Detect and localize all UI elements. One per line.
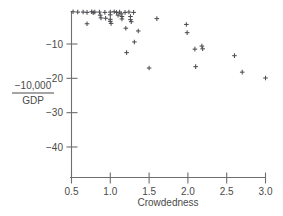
x-axis-tick-label: 1.5 bbox=[142, 186, 156, 197]
data-point bbox=[193, 47, 198, 52]
data-point bbox=[124, 26, 129, 31]
data-point bbox=[232, 53, 237, 58]
data-points bbox=[71, 9, 268, 80]
x-axis-tick-label: 2.0 bbox=[181, 186, 195, 197]
x-axis-tick-label: 3.0 bbox=[259, 186, 273, 197]
data-point bbox=[99, 16, 104, 21]
data-point bbox=[200, 44, 205, 49]
data-point bbox=[75, 10, 80, 15]
data-point bbox=[103, 10, 108, 15]
data-point bbox=[193, 64, 198, 69]
data-point bbox=[112, 9, 117, 14]
y-axis-label-denominator: GDP bbox=[22, 95, 44, 106]
data-point bbox=[240, 70, 245, 75]
y-axis-tick-label: −40 bbox=[46, 142, 63, 153]
x-axis-tick-label: 2.5 bbox=[220, 186, 234, 197]
data-point bbox=[200, 47, 205, 52]
x-axis-ticks: 0.51.01.52.02.53.0 bbox=[65, 173, 273, 198]
data-point bbox=[131, 10, 136, 15]
x-axis-title: Crowdedness bbox=[137, 197, 198, 208]
data-point bbox=[120, 17, 125, 22]
y-axis-tick-label: −20 bbox=[46, 73, 63, 84]
data-point bbox=[132, 40, 137, 45]
data-point bbox=[85, 21, 90, 26]
data-point bbox=[97, 10, 102, 15]
y-axis-tick-label: −10 bbox=[46, 39, 63, 50]
x-axis-tick-label: 1.0 bbox=[103, 186, 117, 197]
data-point bbox=[155, 16, 160, 21]
y-axis-ticks: −10−20−30−40 bbox=[46, 39, 77, 153]
data-point bbox=[185, 30, 190, 35]
scatter-plot-figure: −10,000 GDP −10−20−30−40 0.51.01.52.02.5… bbox=[0, 0, 283, 216]
x-axis-tick-label: 0.5 bbox=[65, 186, 79, 197]
data-point bbox=[127, 10, 132, 15]
data-point bbox=[263, 76, 268, 81]
data-point bbox=[108, 13, 113, 18]
data-point bbox=[103, 16, 108, 21]
data-point bbox=[136, 29, 141, 34]
data-point bbox=[98, 13, 103, 18]
y-axis-tick-label: −30 bbox=[46, 107, 63, 118]
data-point bbox=[147, 66, 152, 71]
data-point bbox=[85, 10, 90, 15]
data-point bbox=[124, 50, 129, 55]
plot-canvas: −10,000 GDP −10−20−30−40 0.51.01.52.02.5… bbox=[0, 0, 283, 216]
data-point bbox=[184, 22, 189, 27]
